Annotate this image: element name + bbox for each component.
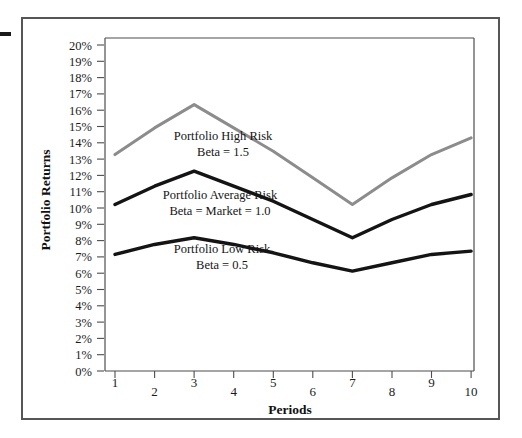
y-tick-marks xyxy=(97,45,104,371)
y-tick-labels: 0% 1% 2% 3% 4% 5% 6% 7% 8% 9% 10% 11% 12… xyxy=(69,39,92,379)
x-tick-label: 3 xyxy=(191,375,198,390)
y-tick-label: 18% xyxy=(69,71,92,85)
x-tick-label: 7 xyxy=(349,375,356,390)
y-tick-label: 16% xyxy=(69,104,92,118)
y-tick-label: 15% xyxy=(69,120,92,134)
y-tick-label: 10% xyxy=(69,202,92,216)
annotation-average-risk-name: Portfolio Average Risk xyxy=(163,188,278,202)
annotation-low-risk: Portfolio Low Risk Beta = 0.5 xyxy=(174,242,271,272)
x-tick-marks xyxy=(115,371,471,378)
chart-figure: Portfolio Returns 0% 1% 2% 3% 4% 5% 6% 7… xyxy=(0,0,522,438)
annotation-low-risk-beta: Beta = 0.5 xyxy=(196,258,248,272)
y-axis-title: Portfolio Returns xyxy=(38,150,53,251)
x-tick-label: 9 xyxy=(428,375,435,390)
y-tick-label: 5% xyxy=(75,283,92,297)
annotation-average-risk: Portfolio Average Risk Beta = Market = 1… xyxy=(163,188,278,218)
y-tick-label: 0% xyxy=(75,365,92,379)
y-tick-label: 13% xyxy=(69,153,92,167)
y-tick-label: 12% xyxy=(69,169,92,183)
plot-box-axes xyxy=(105,38,474,371)
annotation-low-risk-name: Portfolio Low Risk xyxy=(174,242,271,256)
annotation-average-risk-beta: Beta = Market = 1.0 xyxy=(169,204,270,218)
x-axis-title: Periods xyxy=(268,402,312,417)
y-tick-label: 14% xyxy=(69,136,92,150)
x-tick-label: 10 xyxy=(465,384,478,399)
y-tick-label: 19% xyxy=(69,55,92,69)
y-tick-label: 1% xyxy=(75,348,92,362)
y-tick-label: 17% xyxy=(69,87,92,101)
x-tick-label: 4 xyxy=(230,384,237,399)
x-tick-label: 1 xyxy=(112,375,119,390)
x-tick-labels: 1 2 3 4 5 6 7 8 9 10 xyxy=(112,375,478,399)
y-tick-label: 2% xyxy=(75,332,92,346)
y-tick-label: 7% xyxy=(75,250,92,264)
series-line-low-risk xyxy=(115,238,471,271)
x-tick-label: 8 xyxy=(389,384,396,399)
x-tick-label: 5 xyxy=(270,375,277,390)
x-tick-label: 6 xyxy=(310,384,317,399)
annotation-high-risk-name: Portfolio High Risk xyxy=(174,129,273,143)
y-tick-label: 11% xyxy=(70,185,92,199)
plot-area: Portfolio Returns 0% 1% 2% 3% 4% 5% 6% 7… xyxy=(0,0,522,438)
y-tick-label: 8% xyxy=(75,234,92,248)
x-tick-label: 2 xyxy=(151,384,158,399)
line-chart-svg: Portfolio Returns 0% 1% 2% 3% 4% 5% 6% 7… xyxy=(0,0,522,438)
annotation-high-risk-beta: Beta = 1.5 xyxy=(197,145,249,159)
y-tick-label: 4% xyxy=(75,299,92,313)
y-tick-label: 20% xyxy=(69,39,92,53)
y-tick-label: 9% xyxy=(75,218,92,232)
y-tick-label: 6% xyxy=(75,267,92,281)
y-tick-label: 3% xyxy=(75,316,92,330)
